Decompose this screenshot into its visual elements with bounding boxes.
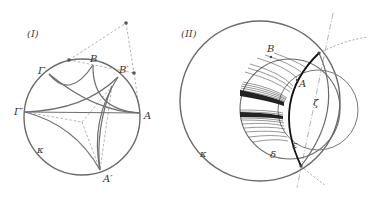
panel-label-I: (I) [27,28,39,39]
label-A-II: A [298,78,306,89]
dashed-arc-bottom [301,166,325,185]
dashed-arc-top [319,37,368,53]
label-B-II: B [266,43,274,54]
panel-label-II: (II) [181,28,197,39]
label-kappa-II: κ [199,148,207,159]
label-B: B [89,53,97,64]
figure-I: (I) B B′ Γ Γ′ A A′ κ [13,21,151,184]
label-Gamma-prime: Γ′ [13,106,24,117]
label-delta: δ [270,149,276,160]
label-zeta: ζ [313,97,319,108]
label-A: A [143,110,151,121]
label-epsilon: ε [292,139,297,150]
label-A-prime: A′ [102,173,113,184]
figure-II: (II) B A ζ ε δ κ [180,13,368,188]
label-Gamma: Γ [37,65,46,76]
label-B-prime: B′ [118,64,129,75]
label-kappa-I: κ [36,144,44,155]
diagram-canvas: (I) B B′ Γ Γ′ A A′ κ [0,0,377,197]
